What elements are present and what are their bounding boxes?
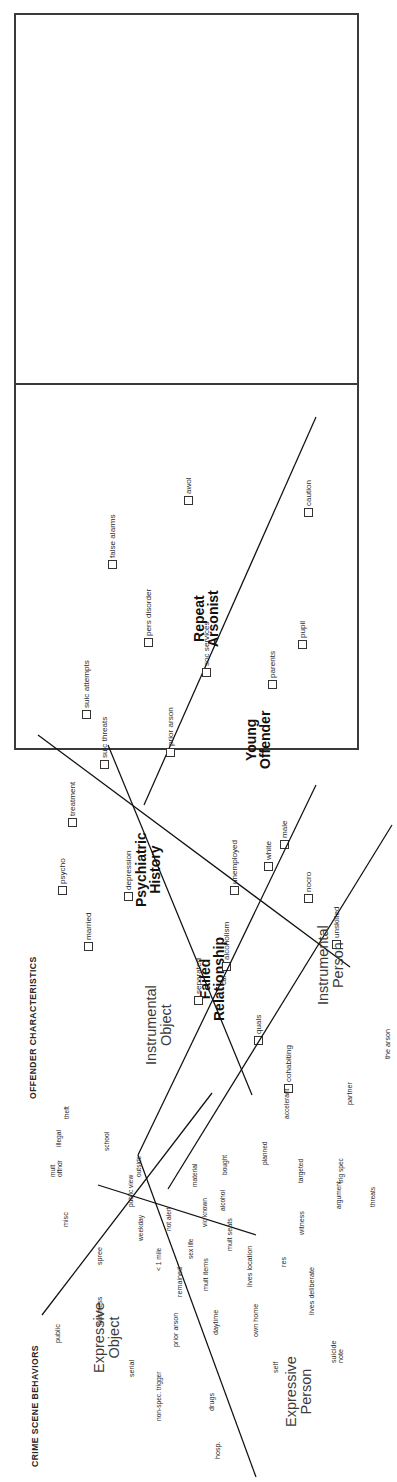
point-lives-location[interactable]: lives location	[246, 1246, 254, 1289]
region-instrumental-person: InstrumentalPerson	[316, 925, 346, 1005]
region-instrumental-object: InstrumentalObject	[144, 985, 174, 1065]
point-hosp[interactable]: hosp.	[214, 1441, 222, 1461]
point-drugs[interactable]: drugs	[208, 1393, 216, 1413]
point-car[interactable]: car	[220, 975, 228, 987]
point-under-1-mile[interactable]: < 1 mile	[156, 1248, 164, 1273]
point-school[interactable]: school	[104, 1132, 112, 1153]
point-argument[interactable]: argument	[336, 1181, 344, 1211]
crime-scene-plot: CRIME SCENE BEHAVIORS ExpressiveObject E…	[16, 752, 397, 1482]
point-threats[interactable]: threats	[370, 1187, 378, 1209]
point-self[interactable]: self	[272, 1362, 280, 1375]
point-accelerant[interactable]: accelerant	[284, 1089, 292, 1121]
point-suic-attempts[interactable]: suic attempts	[82, 660, 92, 719]
point-partner[interactable]: partner	[346, 1082, 354, 1107]
point-targeted[interactable]: targeted	[298, 1159, 306, 1185]
point-the-arson[interactable]: the arson	[384, 1029, 392, 1061]
point-public[interactable]: public	[54, 1324, 62, 1345]
point-prior-arson-cs[interactable]: prior arson	[172, 1313, 180, 1349]
crime-partition-lines	[16, 752, 397, 1482]
point-pers-disorder[interactable]: pers disorder	[144, 589, 154, 647]
point-daytime[interactable]: daytime	[212, 1310, 220, 1337]
point-business[interactable]: business	[96, 1297, 104, 1327]
point-outside[interactable]: outside	[136, 1156, 144, 1179]
point-material[interactable]: material	[192, 1164, 200, 1189]
point-suicide-note[interactable]: suicide note	[330, 1341, 345, 1365]
point-res[interactable]: res	[280, 1257, 288, 1269]
point-soc-services[interactable]: soc services	[202, 621, 212, 677]
point-parents[interactable]: parents	[268, 651, 278, 689]
point-caution[interactable]: caution	[304, 480, 314, 517]
point-serial[interactable]: serial	[128, 1360, 136, 1379]
region-expressive-person: ExpressivePerson	[284, 1356, 314, 1427]
point-pupil[interactable]: pupil	[298, 621, 308, 649]
point-false-alarms[interactable]: false alarms	[108, 514, 118, 569]
panel-crime-scene-behaviors: CRIME SCENE BEHAVIORS ExpressiveObject E…	[16, 752, 397, 1482]
point-planned[interactable]: planned	[262, 1142, 270, 1167]
point-not-alert[interactable]: not alert	[166, 1207, 174, 1233]
point-vic-known[interactable]: vic known	[202, 1198, 210, 1229]
partition-line-8	[168, 825, 392, 1189]
point-spree[interactable]: spree	[96, 1247, 104, 1267]
point-lives-deliberate[interactable]: lives deliberate	[308, 1267, 316, 1317]
point-own-home[interactable]: own home	[252, 1304, 260, 1339]
point-weekday[interactable]: weekday	[138, 1215, 146, 1243]
point-mult-items[interactable]: mult items	[202, 1258, 210, 1293]
point-alcohol[interactable]: alcohol	[220, 1190, 228, 1213]
point-illegal[interactable]: illegal	[56, 1130, 64, 1149]
point-theft[interactable]: theft	[64, 1106, 72, 1121]
point-public-view[interactable]: public view	[128, 1175, 136, 1209]
point-witness[interactable]: witness	[298, 1211, 306, 1237]
point-mult-seats[interactable]: mult seats	[226, 1218, 234, 1253]
point-remained[interactable]: remained	[176, 1267, 184, 1299]
figure-frame: OFFENDER CHARACTERISTICS FailedRelations…	[14, 13, 359, 750]
point-non-spec-trigger[interactable]: non-spec. trigger	[156, 1372, 164, 1423]
point-bought[interactable]: bought	[222, 1155, 230, 1177]
point-awol[interactable]: awol	[184, 477, 194, 505]
point-misc[interactable]: misc	[62, 1212, 70, 1229]
point-sex-life[interactable]: sex life	[188, 1238, 196, 1261]
point-mult-offndr[interactable]: mult offndr	[50, 1160, 64, 1179]
point-prior-arson[interactable]: prior arson	[166, 707, 176, 757]
